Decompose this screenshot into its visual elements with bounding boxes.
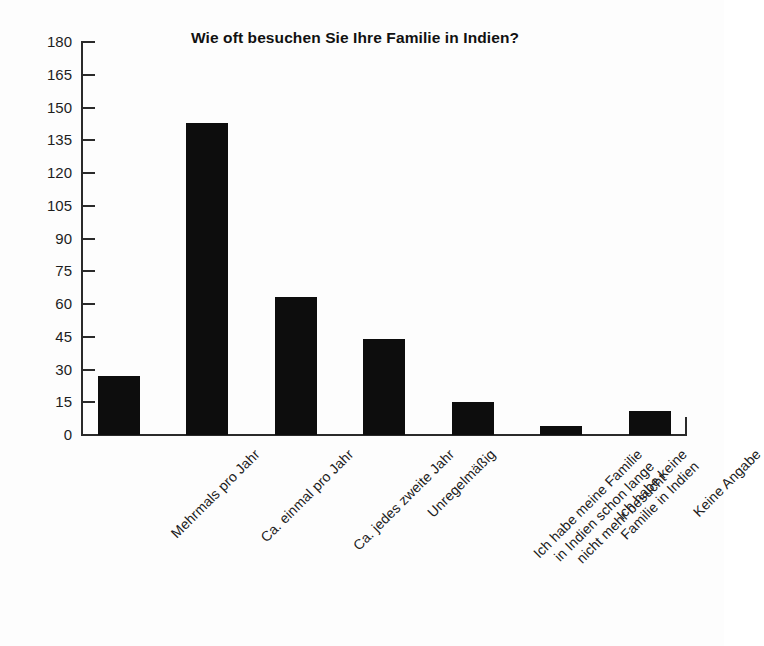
y-axis-tick — [83, 74, 95, 76]
y-axis-tick — [83, 107, 95, 109]
bar — [98, 376, 140, 435]
bar — [186, 123, 228, 435]
y-axis-tick-value: 90 — [26, 231, 72, 246]
y-axis-tick-value: 45 — [26, 329, 72, 344]
y-axis-tick-value: 165 — [26, 67, 72, 82]
y-axis-tick — [83, 369, 95, 371]
x-axis-label: Mehrmals pro Jahr — [167, 446, 263, 542]
y-axis-tick — [83, 139, 95, 141]
bar — [452, 402, 494, 435]
y-axis-tick — [83, 303, 95, 305]
y-axis-tick — [83, 172, 95, 174]
y-axis-tick-value: 15 — [26, 394, 72, 409]
y-axis-tick-value: 105 — [26, 198, 72, 213]
y-axis-tick-value: 120 — [26, 165, 72, 180]
x-axis-label: Keine Angabe — [689, 446, 764, 521]
y-axis-tick-value: 135 — [26, 132, 72, 147]
y-axis-tick — [83, 205, 95, 207]
y-axis-tick — [83, 238, 95, 240]
x-axis-end-tick — [685, 417, 687, 435]
y-axis-tick — [83, 336, 95, 338]
y-axis-tick-value: 0 — [26, 427, 72, 442]
y-axis-tick-value: 180 — [26, 34, 72, 49]
y-axis-tick — [83, 401, 95, 403]
bar — [629, 411, 671, 435]
bar — [540, 426, 582, 435]
y-axis-tick-value: 75 — [26, 263, 72, 278]
bar — [363, 339, 405, 435]
y-axis-tick-value: 30 — [26, 362, 72, 377]
y-axis-tick — [83, 41, 95, 43]
y-axis-tick — [83, 270, 95, 272]
y-axis-tick-value: 60 — [26, 296, 72, 311]
y-axis-tick-value: 150 — [26, 100, 72, 115]
bar — [275, 297, 317, 435]
chart-title: Wie oft besuchen Sie Ihre Familie in Ind… — [120, 29, 590, 47]
x-axis-label: Ca. einmal pro Jahr — [257, 446, 357, 546]
